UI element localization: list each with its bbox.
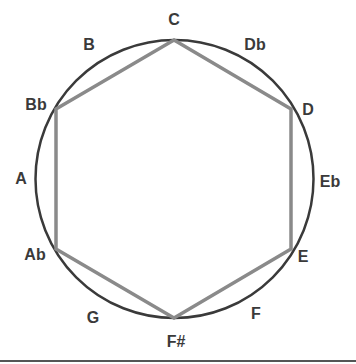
note-label-e: E (298, 248, 309, 266)
note-circle (36, 40, 314, 318)
note-label-d: D (302, 101, 314, 119)
note-label-c: C (168, 11, 180, 29)
note-label-eb: Eb (320, 173, 340, 191)
bottom-divider (0, 360, 356, 362)
note-label-f: F (251, 305, 261, 323)
circle-of-notes-diagram (0, 0, 356, 364)
note-label-fsharp: F# (167, 333, 186, 351)
note-label-b: B (83, 36, 95, 54)
note-label-ab: Ab (24, 246, 45, 264)
note-label-db: Db (244, 36, 265, 54)
note-label-g: G (87, 309, 99, 327)
note-label-a: A (15, 170, 27, 188)
note-label-bb: Bb (25, 96, 46, 114)
whole-tone-hexagon (56, 40, 291, 318)
